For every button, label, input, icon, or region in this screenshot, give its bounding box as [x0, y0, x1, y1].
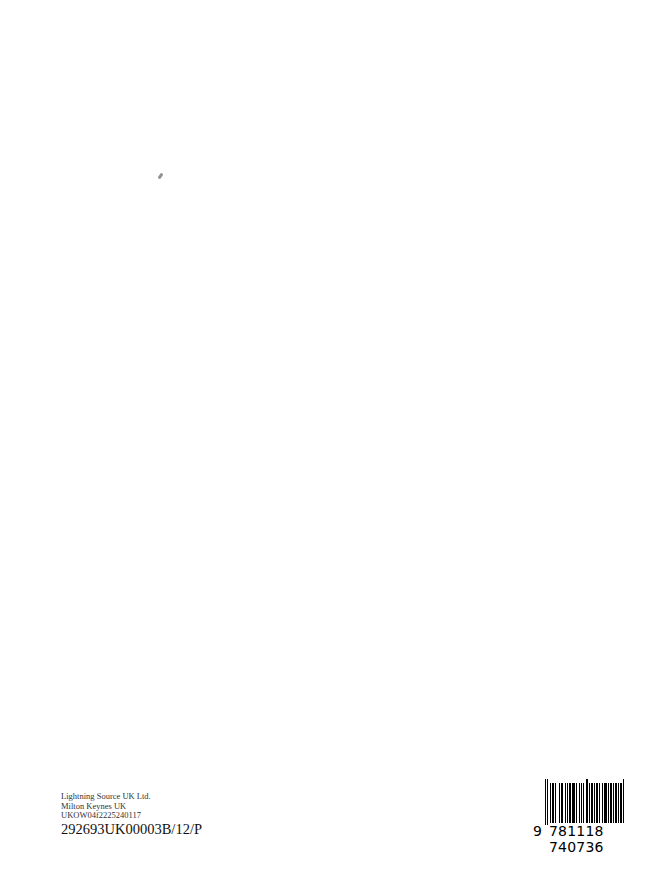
- printer-imprint: Lightning Source UK Ltd. Milton Keynes U…: [61, 792, 202, 837]
- barcode-bars-icon: [545, 783, 625, 825]
- barcode-digits: 781118 740736: [548, 823, 658, 855]
- barcode-first-digit: 9: [533, 823, 542, 839]
- imprint-print-id: 292693UK00003B/12/P: [61, 821, 202, 837]
- ink-speck: [158, 173, 164, 180]
- isbn-barcode: 9 781118 740736: [533, 783, 658, 843]
- imprint-job-code: UKOW04f2225240117: [61, 811, 202, 821]
